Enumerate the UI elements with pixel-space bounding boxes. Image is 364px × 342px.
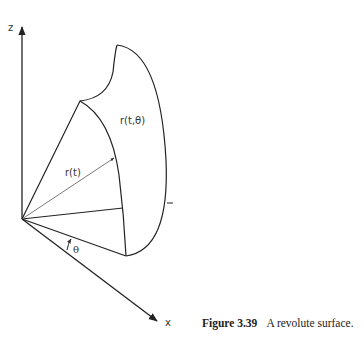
z-axis-label: z — [8, 22, 13, 33]
middle-radial-line — [22, 208, 123, 219]
surface-label: r(t,θ) — [120, 115, 145, 126]
profile-curve — [22, 101, 126, 256]
revolute-surface-diagram: z x r(t,θ) r(t) θ — [0, 0, 364, 342]
x-axis — [22, 219, 157, 321]
theta-angle-arrow — [67, 239, 71, 250]
cusp-edge — [80, 45, 117, 101]
figure-caption: Figure 3.39A revolute surface. — [202, 317, 354, 329]
figure-number: Figure 3.39 — [202, 317, 257, 329]
x-axis-label: x — [165, 317, 171, 328]
theta-label: θ — [73, 244, 79, 255]
figure-caption-text: A revolute surface. — [266, 317, 353, 329]
profile-curve-label: r(t) — [65, 167, 81, 178]
